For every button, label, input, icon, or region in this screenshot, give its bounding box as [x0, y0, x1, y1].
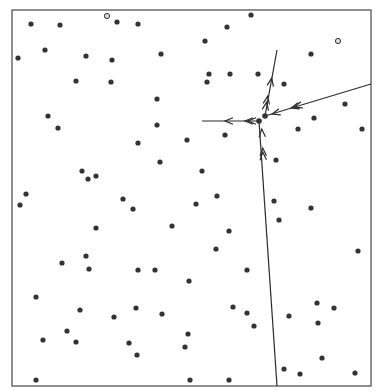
particle-dot	[85, 176, 90, 181]
particle-dot	[199, 168, 204, 173]
particle-dot	[40, 337, 45, 342]
particle-dot	[73, 339, 78, 344]
dots	[15, 12, 364, 382]
particle-dot	[182, 344, 187, 349]
particle-dot	[109, 57, 114, 62]
particle-dot	[251, 323, 256, 328]
particle-dot	[135, 140, 140, 145]
particle-dot	[185, 331, 190, 336]
particle-dot	[33, 377, 38, 382]
particle-dot	[42, 47, 47, 52]
particle-dot	[64, 328, 69, 333]
particle-track-diagram	[0, 0, 377, 392]
particle-dot	[355, 248, 360, 253]
particle-dot	[133, 305, 138, 310]
particle-dot	[308, 51, 313, 56]
particle-dot	[222, 132, 227, 137]
particle-dot	[159, 311, 164, 316]
particle-dot	[359, 126, 364, 131]
particle-dot	[315, 320, 320, 325]
particle-dot	[111, 314, 116, 319]
particle-dot	[108, 79, 113, 84]
particle-dot	[59, 260, 64, 265]
particle-dot	[224, 24, 229, 29]
particle-dot	[57, 22, 62, 27]
particle-dot	[93, 173, 98, 178]
particle-dot	[281, 366, 286, 371]
particle-dot	[331, 305, 336, 310]
particle-dot	[335, 38, 340, 43]
particle-dot	[157, 159, 162, 164]
track-up	[265, 50, 277, 116]
particle-dot	[311, 115, 316, 120]
particle-dot	[214, 193, 219, 198]
particle-dot	[202, 38, 207, 43]
particle-dot	[273, 157, 278, 162]
particle-dot	[319, 355, 324, 360]
particle-dot	[73, 78, 78, 83]
arrow-chevron-icon	[262, 102, 268, 110]
particle-dot	[86, 266, 91, 271]
particle-dot	[226, 228, 231, 233]
particle-dot	[104, 13, 109, 18]
particle-dot	[352, 370, 357, 375]
tracks	[202, 50, 371, 386]
particle-dot	[206, 71, 211, 76]
particle-dot	[248, 12, 253, 17]
particle-dot	[158, 51, 163, 56]
particle-dot	[244, 267, 249, 272]
particle-dot	[23, 191, 28, 196]
particle-dot	[186, 278, 191, 283]
particle-dot	[45, 113, 50, 118]
particle-dot	[213, 246, 218, 251]
particle-dot	[281, 81, 286, 86]
particle-dot	[77, 307, 82, 312]
particle-dot	[17, 202, 22, 207]
particle-dot	[135, 21, 140, 26]
track-right	[265, 84, 371, 116]
particle-dot	[342, 101, 347, 106]
particle-dot	[187, 377, 192, 382]
particle-dot	[33, 294, 38, 299]
particle-dot	[55, 125, 60, 130]
particle-dot	[193, 201, 198, 206]
particle-dot	[79, 168, 84, 173]
junction-dot	[256, 118, 262, 124]
particle-dot	[314, 300, 319, 305]
particle-dot	[230, 304, 235, 309]
particle-dot	[308, 205, 313, 210]
particle-dot	[126, 340, 131, 345]
particle-dot	[154, 96, 159, 101]
particle-dot	[154, 122, 159, 127]
particle-dot	[286, 313, 291, 318]
particle-dot	[276, 217, 281, 222]
particle-dot	[297, 371, 302, 376]
particle-dot	[83, 53, 88, 58]
particle-dot	[28, 21, 33, 26]
particle-dot	[295, 126, 300, 131]
particle-dot	[93, 225, 98, 230]
particle-dot	[130, 206, 135, 211]
particle-dot	[244, 310, 249, 315]
arrows	[225, 78, 303, 160]
particle-dot	[15, 55, 20, 60]
junction-dot	[262, 113, 268, 119]
particle-dot	[134, 352, 139, 357]
particle-dot	[271, 198, 276, 203]
particle-dot	[114, 19, 119, 24]
particle-dot	[204, 79, 209, 84]
particle-dot	[227, 71, 232, 76]
particle-dot	[184, 137, 189, 142]
particle-dot	[226, 377, 231, 382]
particle-dot	[255, 71, 260, 76]
particle-dot	[135, 267, 140, 272]
particle-dot	[120, 196, 125, 201]
particle-dot	[83, 253, 88, 258]
particle-dot	[152, 267, 157, 272]
particle-dot	[169, 223, 174, 228]
